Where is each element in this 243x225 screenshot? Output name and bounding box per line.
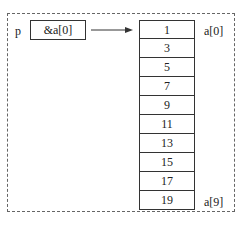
array-cell: 7 [139,77,195,96]
array-cell: 9 [139,96,195,115]
array-cell: 5 [139,58,195,77]
last-element-label: a[9] [204,195,223,209]
array-cell: 13 [139,134,195,153]
array-cell: 3 [139,39,195,58]
pointer-box: &a[0] [30,20,86,40]
array-cell: 11 [139,115,195,134]
array-column: 1 3 5 7 9 11 13 15 17 19 [139,20,195,210]
array-cell: 19 [139,191,195,210]
array-cell: 17 [139,172,195,191]
pointer-name-label: p [15,24,21,38]
first-element-label: a[0] [204,24,223,38]
diagram-frame [7,13,235,212]
arrow-icon [91,24,133,36]
array-cell: 15 [139,153,195,172]
array-cell: 1 [139,20,195,39]
